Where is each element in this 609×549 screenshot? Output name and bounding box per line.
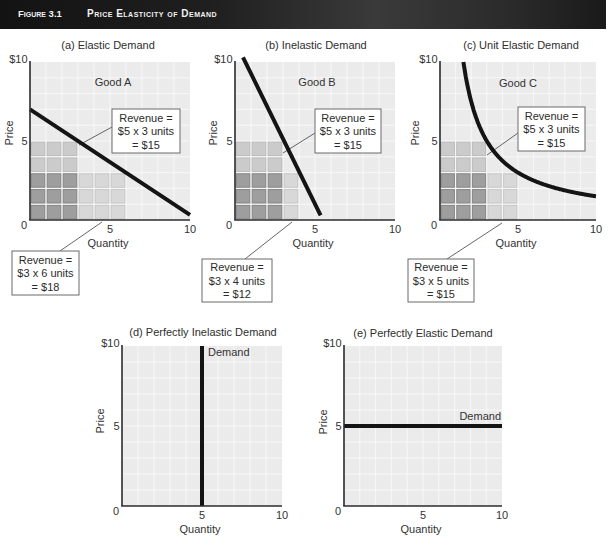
revenue-cell [47, 174, 61, 187]
x-tick-label: 5 [107, 223, 113, 235]
revenue-cell [457, 158, 470, 171]
revenue-cell [441, 174, 454, 187]
x-axis-label: Quantity [293, 237, 334, 249]
x-axis-label: Quantity [180, 523, 221, 535]
revenue-cell [236, 142, 250, 155]
revenue-cell [79, 190, 93, 203]
revenue-annotation: Revenue =$3 x 4 units= $12 [202, 259, 272, 302]
annotation-text-line: $5 x 3 units [523, 123, 580, 135]
revenue-cell [95, 174, 109, 187]
annotation-text-line: Revenue = [525, 110, 579, 122]
y-tick-label: $10 [9, 53, 27, 65]
revenue-cell [47, 190, 61, 203]
revenue-cell [504, 205, 517, 218]
annotation-text-line: $3 x 5 units [413, 275, 470, 287]
y-tick-label: 5 [113, 420, 119, 432]
revenue-cell [47, 158, 61, 171]
x-tick-label: 5 [312, 223, 318, 235]
revenue-cell [63, 158, 77, 171]
y-axis-label: Price [317, 409, 329, 434]
y-tick-label: 5 [431, 135, 437, 147]
x-axis-label: Quantity [88, 237, 129, 249]
y-tick-label: $10 [214, 53, 232, 65]
annotation-leader-line [245, 222, 292, 259]
revenue-cell [31, 174, 45, 187]
annotation-text-line: = $18 [32, 281, 60, 293]
revenue-cell [47, 205, 61, 218]
panel-title: (e) Perfectly Elastic Demand [353, 327, 492, 339]
revenue-cell [457, 190, 470, 203]
revenue-cell [472, 142, 485, 155]
revenue-cell [252, 174, 266, 187]
revenue-cell [31, 142, 45, 155]
y-axis-label: Price [207, 120, 219, 145]
revenue-cell [252, 142, 266, 155]
revenue-cell [111, 190, 125, 203]
revenue-cell [457, 205, 470, 218]
revenue-cell [472, 190, 485, 203]
x-axis-label: Quantity [401, 523, 442, 535]
y-axis-label: Price [3, 120, 15, 145]
revenue-cell [441, 158, 454, 171]
panel-title: (d) Perfectly Inelastic Demand [129, 326, 276, 338]
annotation-text-line: Revenue = [414, 261, 468, 273]
annotation-text-line: $3 x 6 units [17, 267, 74, 279]
revenue-cell [111, 174, 125, 187]
x-tick-label: 5 [515, 223, 521, 235]
revenue-cell [268, 142, 282, 155]
x-tick-label: 10 [184, 223, 196, 235]
revenue-cell [31, 190, 45, 203]
origin-label: 0 [431, 219, 437, 231]
x-tick-label: 10 [276, 509, 288, 521]
revenue-cell [236, 190, 250, 203]
revenue-cell [488, 205, 501, 218]
annotation-text-line: Revenue = [19, 254, 73, 266]
revenue-annotation: Revenue =$3 x 5 units= $15 [408, 259, 474, 302]
revenue-cell [111, 205, 125, 218]
x-tick-label: 10 [389, 223, 401, 235]
chart-panel-e: (e) Perfectly Elastic DemandDemandPriceQ… [317, 327, 508, 535]
revenue-cell [31, 205, 45, 218]
revenue-cell [457, 174, 470, 187]
x-tick-label: 5 [420, 509, 426, 521]
revenue-cell [268, 190, 282, 203]
revenue-cell [284, 205, 298, 218]
x-tick-label: 10 [590, 223, 602, 235]
revenue-annotation: Revenue =$3 x 6 units= $18 [12, 251, 79, 295]
revenue-cell [79, 174, 93, 187]
origin-label: 0 [21, 219, 27, 231]
y-tick-label: 5 [335, 420, 341, 432]
revenue-cell [47, 142, 61, 155]
revenue-cell [95, 205, 109, 218]
figure-canvas: Revenue =$5 x 3 units= $15Revenue =$3 x … [0, 0, 609, 549]
origin-label: 0 [335, 505, 341, 517]
revenue-cell [504, 190, 517, 203]
chart-panel-b: Revenue =$5 x 3 units= $15Revenue =$3 x … [202, 39, 401, 302]
panel-title: (b) Inelastic Demand [265, 39, 367, 51]
annotation-text-line: $5 x 3 units [118, 125, 175, 137]
y-axis-label: Price [94, 408, 106, 433]
annotation-text-line: Revenue = [210, 261, 264, 273]
revenue-cell [268, 174, 282, 187]
revenue-cell [284, 174, 298, 187]
revenue-cell [95, 190, 109, 203]
revenue-cell [488, 190, 501, 203]
demand-label: Demand [459, 410, 501, 422]
annotation-text-line: Revenue = [321, 112, 375, 124]
revenue-annotation: Revenue =$5 x 3 units= $15 [518, 107, 585, 151]
annotation-text-line: $5 x 3 units [320, 125, 377, 137]
revenue-cell [63, 174, 77, 187]
revenue-cell [79, 205, 93, 218]
annotation-text-line: = $15 [538, 137, 566, 149]
y-tick-label: 5 [21, 135, 27, 147]
good-label: Good C [499, 77, 537, 89]
revenue-annotation: Revenue =$5 x 3 units= $15 [315, 109, 381, 153]
y-tick-label: 5 [226, 135, 232, 147]
panel-title: (c) Unit Elastic Demand [463, 39, 579, 51]
revenue-cell [284, 190, 298, 203]
good-label: Good A [95, 76, 132, 88]
annotation-leader-line [447, 223, 502, 259]
annotation-text-line: = $12 [223, 288, 251, 300]
chart-panel-a: Revenue =$5 x 3 units= $15Revenue =$3 x … [3, 39, 196, 295]
revenue-cell [236, 158, 250, 171]
